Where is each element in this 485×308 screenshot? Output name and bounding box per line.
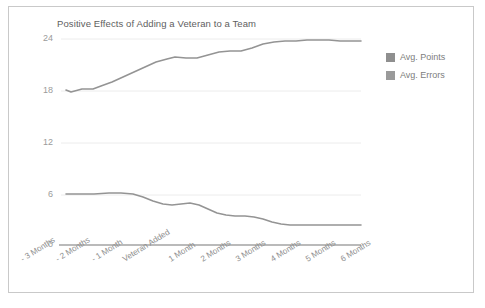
legend-item-avg-points[interactable]: Avg. Points — [386, 51, 472, 63]
y-tick-12: 12 — [31, 137, 53, 147]
chart-panel: Positive Effects of Adding a Veteran to … — [8, 6, 474, 293]
y-tick-24: 24 — [31, 33, 53, 43]
legend-swatch-icon-avg-points — [386, 53, 395, 62]
y-tick-6: 6 — [31, 189, 53, 199]
legend-item-avg-errors[interactable]: Avg. Errors — [386, 69, 472, 81]
series-line-avg-errors — [66, 193, 361, 225]
series-line-avg-points — [66, 40, 361, 92]
y-tick-18: 18 — [31, 85, 53, 95]
legend-label-avg-errors: Avg. Errors — [400, 70, 445, 80]
legend-label-avg-points: Avg. Points — [400, 52, 445, 62]
chart-legend: Avg. Points Avg. Errors — [386, 51, 472, 87]
gridlines — [61, 39, 361, 195]
legend-swatch-icon-avg-errors — [386, 71, 395, 80]
